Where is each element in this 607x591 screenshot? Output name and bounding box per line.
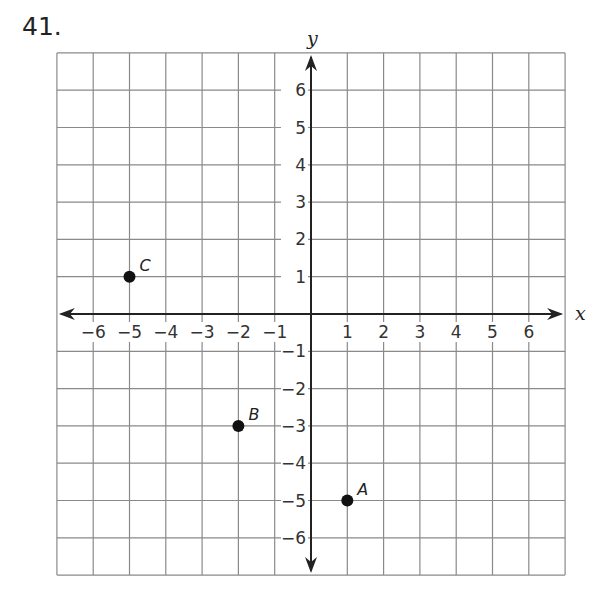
y-tick-label: 3 (295, 192, 306, 212)
y-tick-label: −3 (281, 416, 306, 436)
point-label-C: C (140, 256, 152, 275)
x-tick-label: −6 (81, 322, 106, 342)
x-tick-label: 5 (487, 322, 498, 342)
x-tick-label: −1 (262, 322, 287, 342)
coordinate-plane: xy −6−5−4−3−2−1123456654321−1−2−3−4−5−6 … (0, 0, 607, 591)
x-tick-label: 1 (342, 322, 353, 342)
y-tick-label: 4 (295, 155, 306, 175)
y-tick-label: 2 (295, 229, 306, 249)
y-tick-label: 5 (295, 118, 306, 138)
y-tick-label: −4 (281, 453, 306, 473)
x-tick-label: 6 (523, 322, 534, 342)
x-tick-label: 3 (414, 322, 425, 342)
x-tick-label: −3 (190, 322, 215, 342)
x-tick-label: 2 (378, 322, 389, 342)
point-label-B: B (248, 405, 259, 424)
y-tick-label: 6 (295, 80, 306, 100)
y-tick-label: −6 (281, 528, 306, 548)
points: CBA (124, 256, 369, 507)
point-B (232, 420, 244, 432)
axes: xy (59, 27, 586, 573)
x-tick-label: 4 (451, 322, 462, 342)
x-tick-label: −2 (226, 322, 251, 342)
point-C (124, 271, 136, 283)
y-tick-label: −2 (281, 379, 306, 399)
x-tick-label: −4 (153, 322, 178, 342)
y-tick-label: −1 (281, 341, 306, 361)
point-A (341, 495, 353, 507)
x-axis-label: x (575, 302, 586, 324)
y-tick-label: 1 (295, 267, 306, 287)
point-label-A: A (356, 480, 368, 499)
x-tick-label: −5 (117, 322, 142, 342)
y-axis-label: y (306, 27, 318, 49)
y-tick-label: −5 (281, 491, 306, 511)
